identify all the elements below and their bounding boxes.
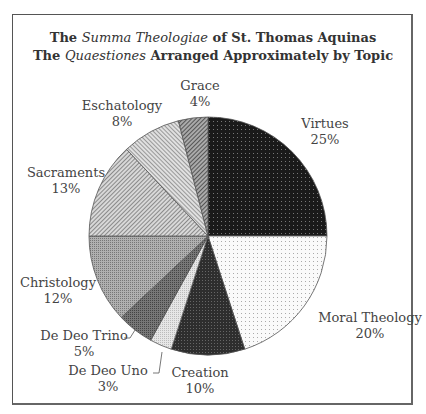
label-virtues: Virtues25% [301,116,349,148]
label-de-deo-trino: De Deo Trino5% [40,328,128,360]
leader-line-de-deo-uno [153,352,162,373]
pie-slices [89,117,327,355]
label-moral-theology: Moral Theology20% [318,310,422,342]
label-de-deo-uno: De Deo Uno3% [68,363,147,395]
label-grace: Grace4% [180,78,219,110]
label-christology: Christology12% [20,275,96,307]
label-creation: Creation10% [171,365,228,397]
label-sacraments: Sacraments13% [27,165,105,197]
label-eschatology: Eschatology8% [82,98,162,130]
